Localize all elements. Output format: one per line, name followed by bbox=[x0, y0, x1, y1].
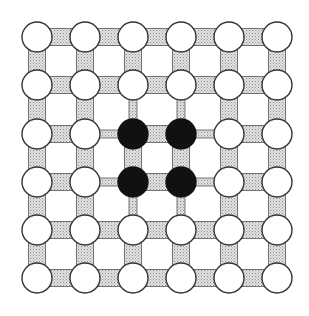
node-1-3 bbox=[166, 70, 196, 100]
node-2-0 bbox=[22, 119, 52, 149]
node-0-2 bbox=[118, 22, 148, 52]
node-0-1 bbox=[70, 22, 100, 52]
node-2-1 bbox=[70, 119, 100, 149]
node-4-5 bbox=[262, 215, 292, 245]
filled-node-3-2 bbox=[118, 167, 148, 197]
node-layer bbox=[22, 22, 292, 293]
filled-node-2-2 bbox=[118, 119, 148, 149]
node-5-2 bbox=[118, 263, 148, 293]
node-0-3 bbox=[166, 22, 196, 52]
node-3-4 bbox=[214, 167, 244, 197]
node-5-4 bbox=[214, 263, 244, 293]
node-4-1 bbox=[70, 215, 100, 245]
node-3-1 bbox=[70, 167, 100, 197]
filled-node-2-3 bbox=[166, 119, 196, 149]
node-1-4 bbox=[214, 70, 244, 100]
node-4-4 bbox=[214, 215, 244, 245]
node-1-2 bbox=[118, 70, 148, 100]
node-1-5 bbox=[262, 70, 292, 100]
node-0-5 bbox=[262, 22, 292, 52]
node-3-5 bbox=[262, 167, 292, 197]
node-0-4 bbox=[214, 22, 244, 52]
node-1-0 bbox=[22, 70, 52, 100]
node-3-0 bbox=[22, 167, 52, 197]
filled-node-3-3 bbox=[166, 167, 196, 197]
node-4-2 bbox=[118, 215, 148, 245]
node-5-1 bbox=[70, 263, 100, 293]
node-2-5 bbox=[262, 119, 292, 149]
node-0-0 bbox=[22, 22, 52, 52]
link-layer bbox=[29, 29, 286, 287]
node-2-4 bbox=[214, 119, 244, 149]
lattice-canvas bbox=[0, 0, 309, 316]
node-5-3 bbox=[166, 263, 196, 293]
node-4-3 bbox=[166, 215, 196, 245]
node-5-0 bbox=[22, 263, 52, 293]
lattice-diagram bbox=[0, 0, 309, 316]
node-4-0 bbox=[22, 215, 52, 245]
node-1-1 bbox=[70, 70, 100, 100]
node-5-5 bbox=[262, 263, 292, 293]
